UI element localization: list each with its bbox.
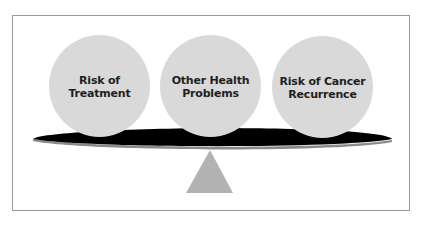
fulcrum-triangle <box>186 150 233 193</box>
ball-risk-of-cancer-recurrence: Risk of Cancer Recurrence <box>272 36 373 138</box>
ball-label: Risk of Cancer Recurrence <box>279 75 365 101</box>
ball-label: Other Health Problems <box>172 74 250 100</box>
ball-label: Risk of Treatment <box>68 74 130 100</box>
ball-other-health-problems: Other Health Problems <box>160 35 261 137</box>
ball-risk-of-treatment: Risk of Treatment <box>49 35 150 137</box>
